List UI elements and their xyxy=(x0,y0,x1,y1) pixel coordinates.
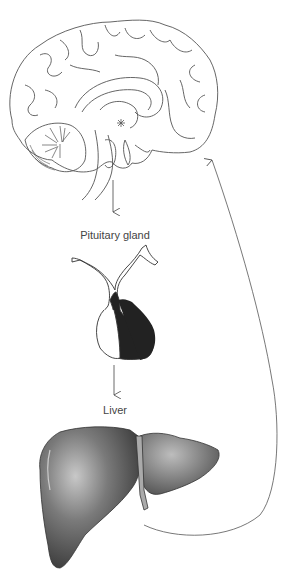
pituitary-gland-illustration xyxy=(72,245,158,360)
liver-illustration xyxy=(40,427,219,568)
pituitary-gland-label: Pituitary gland xyxy=(60,229,170,241)
diagram-canvas xyxy=(0,0,288,587)
brain-illustration xyxy=(10,20,218,200)
liver-label: Liver xyxy=(90,404,140,416)
